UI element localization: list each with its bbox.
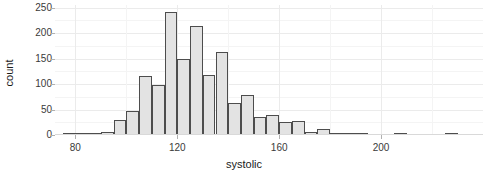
histogram-bar bbox=[139, 76, 152, 135]
gridline-major-vertical bbox=[381, 5, 382, 135]
histogram-bar bbox=[190, 26, 203, 135]
gridline-major-horizontal bbox=[55, 33, 483, 34]
gridline-major-horizontal bbox=[55, 110, 483, 111]
y-tick-mark bbox=[51, 59, 55, 60]
gridline-minor-vertical bbox=[432, 5, 433, 135]
plot-panel bbox=[55, 5, 483, 135]
x-tick-mark bbox=[381, 135, 382, 139]
gridline-minor-horizontal bbox=[55, 71, 483, 72]
x-tick-label: 120 bbox=[157, 143, 197, 153]
y-tick-label: 50 bbox=[14, 105, 52, 115]
histogram-chart: count 050100150200250 80120160200 systol… bbox=[0, 0, 488, 178]
histogram-bar bbox=[165, 12, 178, 135]
y-tick-mark bbox=[51, 84, 55, 85]
histogram-bar bbox=[228, 103, 241, 135]
x-axis-title: systolic bbox=[0, 158, 488, 170]
x-tick-label: 200 bbox=[361, 143, 401, 153]
gridline-major-horizontal bbox=[55, 59, 483, 60]
histogram-bar bbox=[254, 117, 267, 135]
x-tick-mark bbox=[279, 135, 280, 139]
gridline-major-vertical bbox=[75, 5, 76, 135]
histogram-bar bbox=[177, 59, 190, 135]
x-tick-label: 160 bbox=[259, 143, 299, 153]
gridline-minor-horizontal bbox=[55, 46, 483, 47]
y-tick-label: 250 bbox=[14, 3, 52, 13]
gridline-minor-horizontal bbox=[55, 20, 483, 21]
gridline-major-horizontal bbox=[55, 8, 483, 9]
y-tick-mark bbox=[51, 8, 55, 9]
gridline-minor-horizontal bbox=[55, 97, 483, 98]
gridline-major-horizontal bbox=[55, 84, 483, 85]
y-tick-mark bbox=[51, 135, 55, 136]
y-axis-tick-labels: 050100150200250 bbox=[0, 0, 52, 178]
y-tick-mark bbox=[51, 110, 55, 111]
histogram-bar bbox=[292, 121, 305, 135]
histogram-bar bbox=[203, 75, 216, 135]
histogram-bar bbox=[126, 111, 139, 135]
y-tick-label: 0 bbox=[14, 130, 52, 140]
x-tick-mark bbox=[75, 135, 76, 139]
y-tick-label: 150 bbox=[14, 54, 52, 64]
histogram-bar bbox=[216, 52, 229, 135]
y-tick-label: 200 bbox=[14, 28, 52, 38]
histogram-bar bbox=[152, 85, 165, 135]
y-tick-mark bbox=[51, 33, 55, 34]
histogram-bar bbox=[114, 120, 127, 135]
x-tick-label: 80 bbox=[55, 143, 95, 153]
gridline-minor-vertical bbox=[330, 5, 331, 135]
histogram-bar bbox=[241, 95, 254, 135]
x-axis-line bbox=[55, 134, 483, 135]
histogram-bar bbox=[266, 115, 279, 135]
x-tick-mark bbox=[177, 135, 178, 139]
gridline-major-vertical bbox=[279, 5, 280, 135]
y-tick-label: 100 bbox=[14, 79, 52, 89]
